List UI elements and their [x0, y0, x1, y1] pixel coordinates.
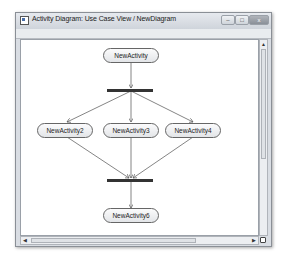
horizontal-scroll-thumb[interactable] — [31, 238, 196, 243]
resize-corner[interactable] — [259, 236, 268, 245]
transition-edges — [21, 40, 259, 236]
resize-grip-icon[interactable] — [260, 237, 266, 243]
join-bar — [107, 179, 153, 182]
vertical-scrollbar[interactable]: ▲ — [259, 39, 268, 236]
title-bar[interactable]: Activity Diagram: Use Case View / NewDia… — [16, 13, 271, 29]
activity-diagram-window: Activity Diagram: Use Case View / NewDia… — [15, 12, 272, 247]
maximize-button[interactable]: □ — [235, 15, 249, 25]
activity-node[interactable]: NewActivity4 — [165, 123, 221, 138]
diagram-window-icon — [20, 16, 29, 25]
activity-node[interactable]: NewActivity6 — [103, 208, 159, 223]
diagram-canvas[interactable]: NewActivity NewActivity2 NewActivity3 Ne… — [20, 39, 259, 236]
vertical-scroll-thumb[interactable] — [261, 49, 266, 159]
scroll-left-arrow-icon[interactable]: ◀ — [21, 237, 29, 244]
window-title: Activity Diagram: Use Case View / NewDia… — [32, 15, 176, 22]
toolbar-strip — [16, 29, 271, 39]
horizontal-scrollbar[interactable]: ◀ ▶ — [20, 236, 259, 245]
minimize-button[interactable]: – — [221, 15, 235, 25]
activity-node[interactable]: NewActivity2 — [37, 123, 93, 138]
close-button[interactable]: x — [249, 15, 269, 25]
scroll-up-arrow-icon[interactable]: ▲ — [260, 40, 267, 48]
activity-node[interactable]: NewActivity3 — [103, 123, 159, 138]
fork-bar — [107, 89, 153, 92]
scroll-right-arrow-icon[interactable]: ▶ — [250, 237, 258, 244]
activity-node[interactable]: NewActivity — [103, 48, 159, 63]
